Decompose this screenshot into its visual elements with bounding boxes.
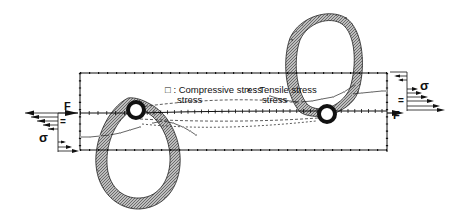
upper-right-stress-loop bbox=[286, 14, 363, 117]
legend-compressive-2: stress bbox=[177, 95, 202, 105]
right-stress-label: σ bbox=[420, 79, 429, 92]
left-stress-label: σ bbox=[39, 131, 48, 144]
left-force-label: F bbox=[64, 101, 71, 112]
right-hole bbox=[319, 106, 335, 122]
left-load-distribution bbox=[25, 110, 79, 153]
right-force-label: F bbox=[393, 110, 400, 121]
left-hole bbox=[128, 102, 144, 118]
legend-tensile-2: stress bbox=[262, 95, 287, 105]
right-equals-sign: = bbox=[398, 96, 404, 106]
stress-diagram: □ : Compressive stress stress × : Tensil… bbox=[0, 0, 464, 218]
left-equals-sign: = bbox=[60, 117, 66, 127]
